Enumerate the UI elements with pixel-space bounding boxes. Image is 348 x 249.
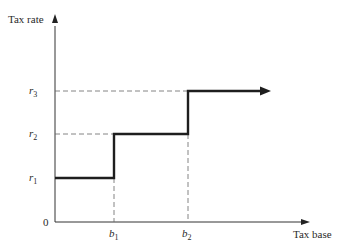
threshold-label-b2: b2 xyxy=(182,227,192,242)
x-axis-label: Tax base xyxy=(293,228,332,240)
guide-lines xyxy=(55,91,188,222)
y-axis xyxy=(52,14,58,222)
origin-label: 0 xyxy=(43,216,49,228)
y-axis-arrowhead-icon xyxy=(52,14,58,23)
threshold-label-b1: b1 xyxy=(109,227,119,242)
y-axis-label: Tax rate xyxy=(8,13,44,25)
x-axis xyxy=(55,219,310,225)
tax-rate-step-line xyxy=(55,87,271,179)
rate-label-r3: r3 xyxy=(29,84,37,99)
step-line-arrowhead-icon xyxy=(260,87,271,96)
x-axis-arrowhead-icon xyxy=(301,219,310,225)
rate-label-r1: r1 xyxy=(29,171,37,186)
tax-rate-diagram: Tax rate Tax base 0 r1 r2 r3 b1 b2 xyxy=(0,0,348,249)
rate-label-r2: r2 xyxy=(29,127,37,142)
